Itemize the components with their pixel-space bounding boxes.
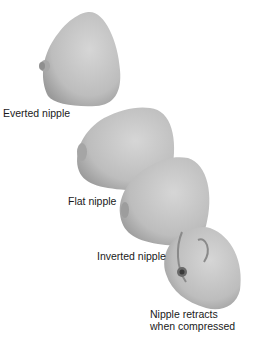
label-everted-nipple: Everted nipple xyxy=(3,107,70,120)
label-retracts-line2: when compressed xyxy=(150,320,235,333)
everted-nipple-drawing xyxy=(39,12,120,106)
nipple-types-illustration xyxy=(0,0,262,340)
compressed-nipple-drawing xyxy=(164,227,240,309)
label-inverted-nipple: Inverted nipple xyxy=(97,250,166,263)
label-flat-nipple: Flat nipple xyxy=(68,195,116,208)
